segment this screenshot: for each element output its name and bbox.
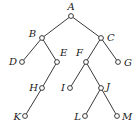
node-label-b: B bbox=[28, 28, 36, 39]
node-d bbox=[20, 60, 25, 65]
node-label-e: E bbox=[59, 47, 68, 58]
node-label-d: D bbox=[8, 56, 17, 67]
edge-j-l bbox=[86, 90, 100, 114]
node-label-f: F bbox=[75, 47, 84, 58]
node-label-h: H bbox=[28, 82, 38, 93]
node-label-l: L bbox=[73, 111, 81, 122]
edge-a-b bbox=[44, 17, 69, 36]
node-l bbox=[83, 114, 88, 119]
edge-b-e bbox=[43, 40, 55, 60]
node-m bbox=[115, 114, 120, 119]
edge-h-k bbox=[26, 90, 41, 114]
node-b bbox=[40, 36, 45, 41]
node-i bbox=[68, 86, 73, 91]
node-k bbox=[23, 114, 28, 119]
node-j bbox=[99, 86, 104, 91]
edges bbox=[24, 17, 117, 114]
edge-b-d bbox=[24, 40, 41, 60]
node-label-m: M bbox=[121, 111, 133, 122]
node-g bbox=[116, 60, 121, 65]
labels: ABCDEFGHIJKLM bbox=[8, 1, 133, 122]
node-label-c: C bbox=[107, 32, 115, 43]
edge-e-h bbox=[43, 64, 56, 86]
node-h bbox=[40, 86, 45, 91]
node-f bbox=[84, 60, 89, 65]
edge-c-f bbox=[87, 40, 99, 60]
edge-f-j bbox=[87, 64, 100, 86]
node-label-a: A bbox=[66, 1, 74, 12]
node-label-j: J bbox=[104, 81, 111, 92]
edge-j-m bbox=[102, 90, 116, 114]
node-label-i: I bbox=[60, 82, 66, 93]
node-c bbox=[99, 36, 104, 41]
node-e bbox=[55, 60, 60, 65]
node-a bbox=[69, 14, 74, 19]
edge-f-i bbox=[71, 64, 84, 86]
edge-a-c bbox=[73, 17, 99, 36]
tree-diagram: ABCDEFGHIJKLM bbox=[0, 0, 140, 129]
node-label-k: K bbox=[13, 111, 22, 122]
node-label-g: G bbox=[124, 57, 132, 68]
